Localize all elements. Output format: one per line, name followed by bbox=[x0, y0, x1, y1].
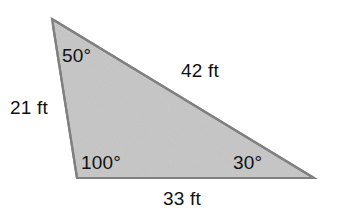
side-label-hypotenuse: 42 ft bbox=[181, 61, 219, 80]
angle-label-apex: 50° bbox=[62, 46, 91, 65]
side-label-base: 33 ft bbox=[163, 189, 201, 208]
side-label-left: 21 ft bbox=[10, 98, 48, 117]
triangle-figure: 50° 21 ft 42 ft 100° 30° 33 ft bbox=[0, 0, 337, 221]
angle-label-bottom-right: 30° bbox=[233, 153, 262, 172]
angle-label-bottom-left: 100° bbox=[81, 153, 121, 172]
